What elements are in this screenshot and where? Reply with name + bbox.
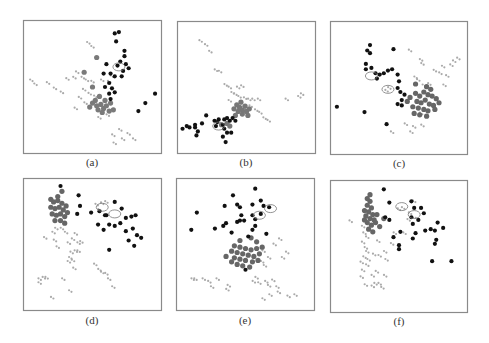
data-point-dark (433, 242, 437, 246)
data-point-dark (224, 140, 228, 144)
data-point-dark (118, 221, 122, 225)
data-point-medium (87, 105, 92, 110)
data-point-dark (139, 236, 143, 240)
panel-b (177, 21, 316, 154)
data-point-dark (400, 98, 404, 102)
data-point-medium (229, 259, 234, 264)
data-point-medium (248, 247, 253, 252)
scatter-plot (23, 178, 162, 311)
data-point-dark (233, 119, 237, 123)
data-point-medium (247, 106, 252, 111)
data-point-dark (189, 228, 193, 232)
data-point-dark (115, 63, 119, 67)
data-point-dark (390, 67, 394, 71)
data-point-dark (398, 90, 402, 94)
data-point-dark (107, 81, 111, 85)
data-point-medium (417, 93, 422, 98)
caption-b: (b) (226, 156, 266, 168)
data-point-medium (111, 107, 116, 112)
data-point-medium (52, 218, 57, 223)
data-point-dark (113, 200, 117, 204)
data-point-dark (230, 230, 234, 234)
data-point-dark (429, 227, 433, 231)
data-point-dark (195, 210, 199, 214)
data-point-medium (90, 84, 95, 89)
data-point-medium (97, 94, 102, 99)
data-point-medium (413, 81, 418, 86)
data-point-medium (231, 106, 236, 111)
data-point-dark (411, 222, 415, 226)
scatter-plot (330, 21, 468, 155)
data-point-medium (238, 100, 243, 105)
data-point-medium (227, 123, 232, 128)
caption-d: (d) (72, 314, 112, 326)
data-point-medium (223, 254, 228, 259)
data-point-dark (387, 218, 391, 222)
data-point-dark (122, 54, 126, 58)
data-point-medium (237, 245, 242, 250)
data-point-dark (253, 224, 257, 228)
data-point-medium (424, 84, 429, 89)
data-point-dark (204, 113, 208, 117)
data-point-medium (243, 258, 248, 263)
data-point-medium (373, 220, 378, 225)
data-point-dark (113, 74, 117, 78)
data-point-dark (398, 230, 402, 234)
data-point-medium (108, 100, 113, 105)
plot-frame (24, 179, 162, 311)
panel-e (176, 178, 315, 311)
data-point-medium (250, 259, 255, 264)
data-point-medium (55, 194, 60, 199)
data-point-dark (193, 123, 197, 127)
caption-a: (a) (72, 156, 112, 168)
data-point-medium (410, 104, 415, 109)
data-point-dark (221, 135, 225, 139)
scatter-plot (177, 21, 316, 154)
data-point-dark (368, 43, 372, 47)
data-point-dark (224, 221, 228, 225)
data-point-dark (122, 49, 126, 53)
data-point-medium (240, 251, 245, 256)
data-point-dark (362, 110, 366, 114)
data-point-dark (238, 205, 242, 209)
data-point-dark (253, 187, 257, 191)
data-point-dark (422, 211, 426, 215)
data-point-dark (120, 206, 124, 210)
scatter-plot (176, 178, 315, 311)
data-point-dark (196, 129, 200, 133)
data-point-medium (367, 192, 372, 197)
caption-e: (e) (225, 314, 265, 326)
data-point-dark (409, 199, 413, 203)
data-point-medium (255, 258, 260, 263)
data-point-dark (127, 66, 131, 70)
data-point-dark (378, 73, 382, 77)
data-point-dark (113, 31, 117, 35)
data-point-dark (103, 85, 107, 89)
data-point-medium (102, 98, 107, 103)
data-point-dark (77, 193, 81, 197)
data-point-medium (94, 55, 99, 60)
scatter-plot (23, 20, 162, 154)
data-point-dark (180, 127, 184, 131)
data-point-medium (423, 97, 428, 102)
data-point-dark (382, 187, 386, 191)
data-point-dark (396, 102, 400, 106)
data-point-dark (143, 101, 147, 105)
data-point-dark (246, 234, 250, 238)
data-point-dark (131, 226, 135, 230)
data-point-medium (374, 212, 379, 217)
data-point-dark (419, 206, 423, 210)
plot-frame (178, 22, 316, 154)
data-point-medium (229, 249, 234, 254)
data-point-dark (96, 222, 100, 226)
data-point-dark (113, 90, 117, 94)
data-point-medium (235, 262, 240, 267)
data-point-dark (187, 125, 191, 129)
data-point-dark (400, 103, 404, 107)
data-point-dark (396, 73, 400, 77)
data-point-medium (59, 189, 64, 194)
data-point-dark (397, 243, 401, 247)
data-point-dark (364, 67, 368, 71)
data-point-medium (82, 70, 87, 75)
data-point-dark (412, 206, 416, 210)
